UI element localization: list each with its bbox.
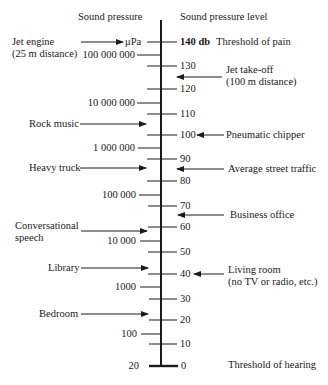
pressure-label: 100 000 000 <box>83 49 136 61</box>
source-line: (100 m distance) <box>226 76 297 88</box>
source-bedroom: Bedroom <box>39 308 78 320</box>
source-conversational-speech: Conversational speech <box>15 220 79 244</box>
db-label: 80 <box>180 175 191 187</box>
pressure-label: 100 000 <box>102 189 136 201</box>
db-label: 130 <box>180 60 196 72</box>
source-line: Living room <box>228 264 317 276</box>
source-jet-takeoff: Jet take-off (100 m distance) <box>226 64 297 88</box>
pressure-label: 1 000 000 <box>93 142 135 154</box>
pressure-label: 10 000 <box>107 235 136 247</box>
pressure-label-upa: μPa <box>125 36 141 48</box>
db-label: 120 <box>180 83 196 95</box>
source-line: Jet engine <box>12 36 77 48</box>
source-threshold-of-hearing: Threshold of hearing <box>228 359 316 371</box>
source-library: Library <box>48 262 80 274</box>
source-line: (no TV or radio, etc.) <box>228 276 317 288</box>
db-label: 60 <box>180 221 191 233</box>
source-living-room: Living room (no TV or radio, etc.) <box>228 264 317 288</box>
db-label-140: 140 db <box>180 36 210 48</box>
db-label: 90 <box>180 153 191 165</box>
source-line: speech <box>15 232 79 244</box>
db-label: 100 <box>180 129 196 141</box>
db-label: 50 <box>180 246 191 258</box>
pressure-label: 1000 <box>115 281 136 293</box>
db-label: 40 <box>180 268 191 280</box>
source-jet-engine: Jet engine (25 m distance) <box>12 36 77 60</box>
db-label: 30 <box>180 293 191 305</box>
pressure-label: 10 000 000 <box>88 97 135 109</box>
pressure-label: 20 <box>129 360 140 372</box>
db-label: 110 <box>180 108 195 120</box>
source-business-office: Business office <box>230 209 294 221</box>
pressure-label: 100 <box>121 328 137 340</box>
db-label: 0 <box>181 360 186 372</box>
source-heavy-truck: Heavy truck <box>29 162 81 174</box>
db-label: 20 <box>180 314 191 326</box>
source-rock-music: Rock music <box>29 118 79 130</box>
db-label: 10 <box>180 338 191 350</box>
source-line: (25 m distance) <box>12 48 77 60</box>
source-line: Jet take-off <box>226 64 297 76</box>
db-label: 70 <box>180 200 191 212</box>
source-pneumatic-chipper: Pneumatic chipper <box>226 129 304 141</box>
source-line: Conversational <box>15 220 79 232</box>
db-label-140-value: 140 db <box>180 36 210 47</box>
source-average-street-traffic: Average street traffic <box>228 163 316 175</box>
source-threshold-of-pain: Threshold of pain <box>216 36 291 48</box>
